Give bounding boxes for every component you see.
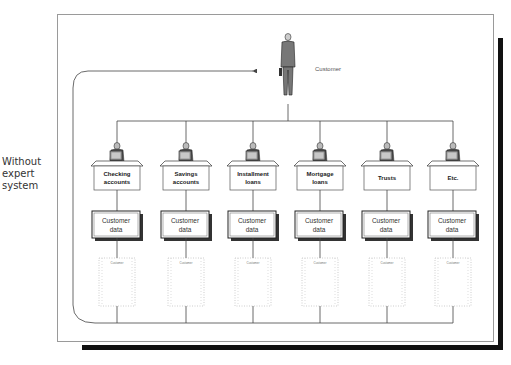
department-name-line: Checking [94, 170, 140, 178]
clerk-at-terminal-icon [313, 143, 327, 163]
customer-data-line: Customer [429, 216, 475, 225]
customer-data-line: Customer [162, 216, 208, 225]
printout-label: Customer [370, 261, 404, 265]
department-name: Etc. [430, 174, 476, 182]
customer-data-line: data [429, 225, 475, 234]
customer-data-line: Customer [363, 216, 409, 225]
customer-data-label: Customerdata [296, 216, 342, 234]
department-name-line: Mortgage [297, 170, 343, 178]
department-name-line: accounts [163, 178, 209, 186]
department-name: Trusts [364, 174, 410, 182]
department-name: Installmentloans [230, 170, 276, 186]
department-name-line: Installment [230, 170, 276, 178]
department-name: Checkingaccounts [94, 170, 140, 186]
customer-data-line: data [296, 225, 342, 234]
printout-document-icon [235, 258, 271, 306]
customer-figure-icon [279, 34, 295, 96]
customer-data-label: Customerdata [93, 216, 139, 234]
clerk-at-terminal-icon [380, 143, 394, 163]
department-name-line: accounts [94, 178, 140, 186]
customer-data-label: Customerdata [229, 216, 275, 234]
department-name-line: Etc. [430, 174, 476, 182]
clerk-at-terminal-icon [179, 143, 193, 163]
customer-data-line: Customer [229, 216, 275, 225]
printout-document-icon [369, 258, 405, 306]
customer-data-label: Customerdata [429, 216, 475, 234]
printout-document-icon [168, 258, 204, 306]
department-name: Mortgageloans [297, 170, 343, 186]
department-name: Savingsaccounts [163, 170, 209, 186]
printout-label: Customer [100, 261, 134, 265]
customer-data-line: data [162, 225, 208, 234]
customer-data-line: Customer [296, 216, 342, 225]
department-name-line: Trusts [364, 174, 410, 182]
printout-document-icon [435, 258, 471, 306]
printout-document-icon [302, 258, 338, 306]
printout-label: Customer [169, 261, 203, 265]
customer-label: Customer [315, 66, 341, 72]
printout-label: Customer [436, 261, 470, 265]
printout-label: Customer [303, 261, 337, 265]
department-name-line: loans [297, 178, 343, 186]
department-name-line: Savings [163, 170, 209, 178]
customer-data-line: Customer [93, 216, 139, 225]
department-columns [91, 121, 479, 323]
clerk-at-terminal-icon [246, 143, 260, 163]
customer-data-line: data [363, 225, 409, 234]
customer-data-label: Customerdata [363, 216, 409, 234]
customer-data-label: Customerdata [162, 216, 208, 234]
customer-data-line: data [229, 225, 275, 234]
clerk-at-terminal-icon [446, 143, 460, 163]
printout-document-icon [99, 258, 135, 306]
clerk-at-terminal-icon [110, 143, 124, 163]
department-name-line: loans [230, 178, 276, 186]
printout-label: Customer [236, 261, 270, 265]
customer-data-line: data [93, 225, 139, 234]
